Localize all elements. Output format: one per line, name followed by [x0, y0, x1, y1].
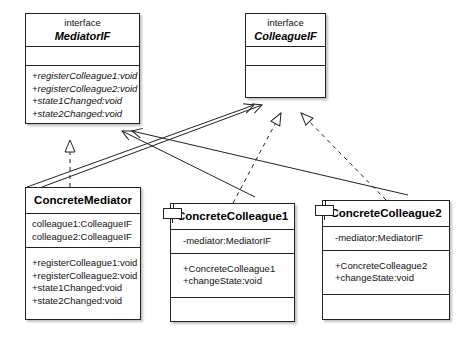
operation-item: +state2Changed:void [32, 295, 134, 308]
class-header-concretecolleague1: ConcreteColleague1 [171, 204, 294, 230]
class-header-concretemediator: ConcreteMediator [26, 188, 140, 214]
class-name-concretecolleague1: ConcreteColleague1 [177, 209, 288, 224]
operation-item: +registerColleague1:void [32, 257, 134, 270]
operation-item: +state1Changed:void [32, 282, 134, 295]
operation-item: +ConcreteColleague2 [335, 260, 443, 273]
operations-compartment-mediatorif: +registerColleague1:void +registerCollea… [26, 66, 139, 124]
class-name-mediatorif: MediatorIF [32, 29, 133, 43]
class-name-colleagueif: ColleagueIF [252, 29, 319, 43]
operation-item: +changeState:void [335, 272, 443, 285]
attributes-compartment-concretemediator: colleague1:ColleagueIF colleague2:Collea… [26, 214, 140, 248]
extra-compartment-concretecolleague2 [323, 295, 449, 311]
stereotype-label-mediatorif: interface [32, 17, 133, 29]
attributes-compartment-mediatorif [26, 47, 139, 66]
interface-socket-concretecolleague2 [315, 205, 334, 216]
class-header-colleagueif: interface ColleagueIF [246, 14, 325, 47]
rel-cc2-assoc-mediatorif [132, 131, 408, 195]
class-header-mediatorif: interface MediatorIF [26, 14, 139, 47]
interface-socket-lead-concretecolleague2 [324, 216, 325, 220]
attribute-item: -mediator:MediatorIF [335, 232, 443, 245]
class-box-colleagueif[interactable]: interface ColleagueIF [245, 13, 326, 98]
uml-class-diagram: interface MediatorIF +registerColleague1… [0, 0, 469, 338]
operation-item: +state1Changed:void [32, 95, 133, 108]
class-name-concretemediator: ConcreteMediator [32, 193, 134, 208]
rel-cc1-realizes-colleagueif [233, 113, 281, 203]
stereotype-label-colleagueif: interface [252, 17, 319, 29]
class-header-concretecolleague2: ConcreteColleague2 [323, 201, 449, 227]
operations-compartment-concretemediator: +registerColleague1:void +registerCollea… [26, 248, 140, 309]
operations-compartment-concretecolleague1: +ConcreteColleague1 +changeState:void [171, 254, 294, 298]
operation-item: +state2Changed:void [32, 108, 133, 121]
rel-cc2-realizes-colleagueif [301, 113, 386, 200]
attribute-item: colleague1:ColleagueIF [32, 218, 134, 231]
operation-item: +registerColleague2:void [32, 83, 133, 96]
class-box-concretemediator[interactable]: ConcreteMediator colleague1:ColleagueIF … [25, 187, 141, 320]
operation-item: +changeState:void [183, 275, 288, 288]
class-box-concretecolleague1[interactable]: ConcreteColleague1 -mediator:MediatorIF … [170, 203, 295, 322]
rel-cc1-assoc-mediatorif [122, 131, 255, 197]
attributes-compartment-concretecolleague1: -mediator:MediatorIF [171, 230, 294, 254]
operation-item: +registerColleague2:void [32, 270, 134, 283]
attribute-item: colleague2:ColleagueIF [32, 231, 134, 244]
class-box-concretecolleague2[interactable]: ConcreteColleague2 -mediator:MediatorIF … [322, 200, 450, 320]
interface-socket-lead-concretecolleague1 [172, 219, 173, 223]
operation-item: +registerColleague1:void [32, 70, 133, 83]
extra-compartment-concretecolleague1 [171, 298, 294, 314]
operation-item: +ConcreteColleague1 [183, 263, 288, 276]
class-box-mediatorif[interactable]: interface MediatorIF +registerColleague1… [25, 13, 140, 124]
class-name-concretecolleague2: ConcreteColleague2 [329, 206, 443, 221]
interface-socket-concretecolleague1 [163, 208, 182, 219]
attribute-item: -mediator:MediatorIF [183, 235, 288, 248]
attributes-compartment-colleagueif [246, 47, 325, 66]
attributes-compartment-concretecolleague2: -mediator:MediatorIF [323, 227, 449, 251]
operations-compartment-concretecolleague2: +ConcreteColleague2 +changeState:void [323, 251, 449, 295]
operations-compartment-colleagueif [246, 66, 325, 93]
